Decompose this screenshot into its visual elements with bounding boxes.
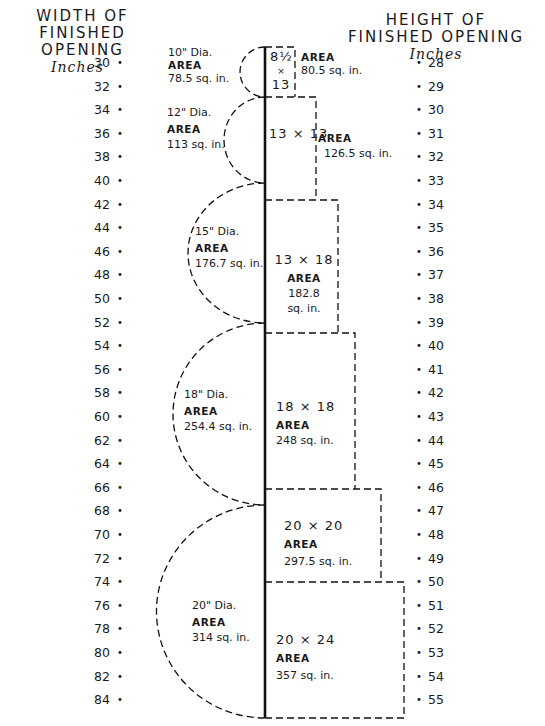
rect-height: 13	[270, 78, 292, 92]
height-tick-dot: •	[416, 198, 422, 212]
height-tick-dot: •	[416, 245, 422, 259]
height-tick: 39	[428, 316, 444, 330]
rect-area-value: 297.5 sq. in.	[284, 553, 352, 570]
rect-20x24-label: 20 × 24 AREA 357 sq. in.	[276, 631, 335, 684]
height-tick: 45	[428, 457, 444, 471]
height-tick: 34	[428, 198, 444, 212]
width-tick-dot: •	[117, 575, 123, 589]
height-tick: 37	[428, 268, 444, 282]
height-tick: 54	[428, 670, 444, 684]
width-tick: 66	[78, 481, 110, 495]
height-tick: 41	[428, 363, 444, 377]
width-tick-dot: •	[117, 363, 123, 377]
width-tick: 54	[78, 339, 110, 353]
width-tick: 60	[78, 410, 110, 424]
height-tick: 28	[428, 56, 444, 70]
circle-18in-label: 18" Dia. AREA 254.4 sq. in.	[184, 387, 252, 435]
height-tick-dot: •	[416, 670, 422, 684]
height-tick-dot: •	[416, 434, 422, 448]
width-tick-dot: •	[117, 150, 123, 164]
width-tick: 64	[78, 457, 110, 471]
height-tick-dot: •	[416, 221, 422, 235]
height-tick-dot: •	[416, 174, 422, 188]
width-tick: 70	[78, 528, 110, 542]
height-tick-dot: •	[416, 646, 422, 660]
width-tick-dot: •	[117, 457, 123, 471]
height-tick: 35	[428, 221, 444, 235]
rect-area-value: 248 sq. in.	[276, 433, 335, 449]
width-tick-dot: •	[117, 80, 123, 94]
circle-diameter: 20" Dia.	[192, 598, 250, 614]
height-tick-dot: •	[416, 504, 422, 518]
height-tick: 32	[428, 150, 444, 164]
rect-area-label: AREA	[284, 536, 352, 553]
rect-dims: 20 × 24	[276, 631, 335, 648]
circle-diameter: 12" Dia.	[167, 105, 225, 121]
rect-area-value: 126.5 sq. in.	[324, 146, 392, 161]
width-tick-dot: •	[117, 552, 123, 566]
width-tick: 38	[78, 150, 110, 164]
height-tick-dot: •	[416, 268, 422, 282]
width-tick: 84	[78, 693, 110, 707]
height-tick-dot: •	[416, 80, 422, 94]
width-tick-dot: •	[117, 103, 123, 117]
width-tick-dot: •	[117, 622, 123, 636]
width-tick: 82	[78, 670, 110, 684]
circle-diameter: 15" Dia.	[195, 224, 263, 240]
height-tick: 43	[428, 410, 444, 424]
rect-18x18-label: 18 × 18 AREA 248 sq. in.	[276, 399, 335, 449]
height-tick-dot: •	[416, 552, 422, 566]
width-tick: 62	[78, 434, 110, 448]
width-tick-dot: •	[117, 127, 123, 141]
width-tick: 40	[78, 174, 110, 188]
width-tick-dot: •	[117, 646, 123, 660]
width-tick: 74	[78, 575, 110, 589]
width-tick-dot: •	[117, 245, 123, 259]
times-sign: ×	[270, 64, 292, 78]
height-tick-dot: •	[416, 56, 422, 70]
circle-area-value: 113 sq. in.	[167, 137, 225, 153]
height-tick-dot: •	[416, 316, 422, 330]
circle-12in-label: 12" Dia. AREA 113 sq. in.	[167, 105, 225, 153]
height-tick: 53	[428, 646, 444, 660]
circle-10in-label: 10" Dia. AREA 78.5 sq. in.	[168, 46, 229, 85]
height-tick: 30	[428, 103, 444, 117]
circle-area-value: 254.4 sq. in.	[184, 419, 252, 435]
width-tick: 80	[78, 646, 110, 660]
rect-area-value: 80.5 sq. in.	[301, 64, 362, 77]
width-tick: 48	[78, 268, 110, 282]
height-tick: 33	[428, 174, 444, 188]
circle-area-label: AREA	[195, 240, 263, 256]
height-tick: 42	[428, 386, 444, 400]
height-tick-dot: •	[416, 599, 422, 613]
height-tick: 49	[428, 552, 444, 566]
width-tick-dot: •	[117, 198, 123, 212]
circle-15in-label: 15" Dia. AREA 176.7 sq. in.	[195, 224, 263, 272]
height-tick-dot: •	[416, 457, 422, 471]
rect-width: 8½	[270, 50, 292, 64]
height-tick-dot: •	[416, 150, 422, 164]
rect-area-label: AREA	[276, 650, 335, 667]
width-tick: 58	[78, 386, 110, 400]
width-tick-dot: •	[117, 670, 123, 684]
height-tick-dot: •	[416, 339, 422, 353]
rect-area-value: 182.8	[272, 286, 336, 301]
rect-13x13-outline	[265, 97, 316, 200]
rect-13x18-label: 13 × 18 AREA 182.8 sq. in.	[272, 252, 336, 316]
width-tick: 44	[78, 221, 110, 235]
height-tick: 50	[428, 575, 444, 589]
circle-area-label: AREA	[192, 614, 250, 630]
width-tick: 42	[78, 198, 110, 212]
height-tick-dot: •	[416, 693, 422, 707]
width-tick: 78	[78, 622, 110, 636]
width-tick-dot: •	[117, 56, 123, 70]
rect-13x13-area: AREA 126.5 sq. in.	[318, 131, 392, 161]
width-tick: 72	[78, 552, 110, 566]
rect-20x20-label: 20 × 20 AREA 297.5 sq. in.	[284, 517, 352, 570]
height-tick-dot: •	[416, 410, 422, 424]
height-tick: 55	[428, 693, 444, 707]
width-tick: 56	[78, 363, 110, 377]
height-tick-dot: •	[416, 481, 422, 495]
rect-area-label: AREA	[276, 417, 335, 433]
circle-diameter: 10" Dia.	[168, 46, 229, 59]
